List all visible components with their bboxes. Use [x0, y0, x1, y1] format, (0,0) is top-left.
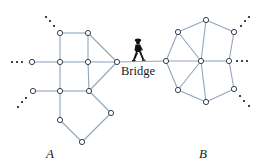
ellipsis-b-right — [236, 60, 248, 62]
walking-person-icon — [132, 39, 146, 62]
network-b-edge — [201, 61, 206, 102]
network-b-node — [203, 99, 208, 104]
network-b-node — [198, 58, 203, 63]
network-a-node — [57, 59, 62, 64]
region-b-label: B — [199, 146, 207, 161]
network-a-edge — [89, 91, 111, 113]
network-b-edge — [178, 90, 206, 102]
network-b-edge — [206, 20, 234, 32]
network-a-node — [114, 59, 119, 64]
network-a-node — [57, 117, 62, 122]
network-b-edge — [229, 32, 234, 61]
bridge-line — [117, 61, 166, 62]
network-b-edge — [178, 61, 201, 90]
ellipsis-a-top-left — [45, 16, 55, 27]
network-a-edge — [88, 62, 89, 91]
network-b-edge — [166, 61, 178, 90]
network-a-edge — [89, 62, 117, 91]
ellipsis-b-lower-right — [239, 95, 250, 107]
ellipsis-a-left — [11, 61, 23, 63]
region-a-label: A — [45, 146, 54, 161]
network-a-node — [108, 110, 113, 115]
diagram-canvas: Bridge A B — [0, 0, 265, 167]
network-a-edge — [60, 120, 82, 142]
network-a-edge — [82, 113, 111, 142]
bridge-edge — [117, 61, 166, 62]
network-a-node — [29, 59, 34, 64]
network-b-node — [163, 58, 168, 63]
network-a-node — [30, 88, 35, 93]
network-a-node — [86, 88, 91, 93]
network-a-node — [85, 59, 90, 64]
network-a-node — [57, 30, 62, 35]
bridge-label: Bridge — [121, 64, 155, 78]
edges-layer — [32, 20, 234, 142]
network-a-node — [57, 88, 62, 93]
network-b-edge — [206, 89, 234, 102]
network-a-node — [79, 139, 84, 144]
network-b-edge — [229, 61, 234, 89]
ellipsis-b-top-right — [240, 16, 250, 27]
bridge-network-diagram: Bridge A B — [0, 0, 265, 167]
network-b-edge — [178, 20, 206, 32]
network-b-node — [175, 29, 180, 34]
network-b-edge — [178, 32, 201, 61]
network-a-node — [85, 30, 90, 35]
network-b-node — [231, 29, 236, 34]
ellipsis-a-lower-left — [17, 97, 27, 108]
network-b-node — [175, 87, 180, 92]
network-b-node — [226, 58, 231, 63]
network-a-edge — [88, 33, 117, 62]
network-b-node — [231, 86, 236, 91]
network-b-node — [203, 17, 208, 22]
network-b-edge — [166, 32, 178, 61]
network-b-edge — [201, 20, 206, 61]
